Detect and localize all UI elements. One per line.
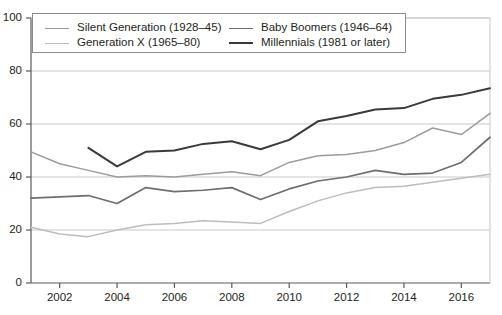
- axis-ticks: [26, 18, 461, 288]
- y-tick-label-40: 40: [0, 171, 22, 183]
- x-tick-label-2010: 2010: [269, 292, 309, 304]
- legend-swatch-line-icon: [229, 28, 253, 29]
- series-line-1: [31, 174, 490, 236]
- y-tick-label-0: 0: [0, 277, 22, 289]
- x-tick-label-2016: 2016: [441, 292, 481, 304]
- x-tick-label-2008: 2008: [212, 292, 252, 304]
- legend-swatch-line-icon: [45, 43, 69, 44]
- legend-swatch-line-icon: [229, 42, 253, 44]
- y-tick-label-20: 20: [0, 224, 22, 236]
- data-series: [31, 88, 490, 236]
- legend-item-label: Baby Boomers (1946–64): [261, 22, 392, 34]
- legend-item-label: Millennials (1981 or later): [261, 37, 390, 49]
- legend-item-2[interactable]: Baby Boomers (1946–64): [229, 20, 392, 36]
- series-line-0: [31, 113, 490, 177]
- legend-swatch-line-icon: [45, 28, 69, 29]
- series-line-3: [88, 88, 490, 166]
- legend-item-0[interactable]: Silent Generation (1928–45): [45, 20, 222, 36]
- series-line-2: [31, 137, 490, 203]
- legend-item-1[interactable]: Generation X (1965–80): [45, 35, 200, 51]
- legend-item-label: Silent Generation (1928–45): [77, 22, 222, 34]
- axis-lines: [31, 18, 490, 283]
- legend-item-3[interactable]: Millennials (1981 or later): [229, 35, 390, 51]
- x-tick-label-2004: 2004: [97, 292, 137, 304]
- legend-item-label: Generation X (1965–80): [77, 37, 200, 49]
- x-tick-label-2002: 2002: [40, 292, 80, 304]
- x-tick-label-2006: 2006: [154, 292, 194, 304]
- legend: Silent Generation (1928–45)Baby Boomers …: [32, 13, 406, 53]
- y-tick-label-100: 100: [0, 12, 22, 24]
- line-chart: 020406080100 200220042006200820102012201…: [0, 0, 502, 315]
- y-tick-label-80: 80: [0, 65, 22, 77]
- x-tick-label-2012: 2012: [327, 292, 367, 304]
- y-tick-label-60: 60: [0, 118, 22, 130]
- x-tick-label-2014: 2014: [384, 292, 424, 304]
